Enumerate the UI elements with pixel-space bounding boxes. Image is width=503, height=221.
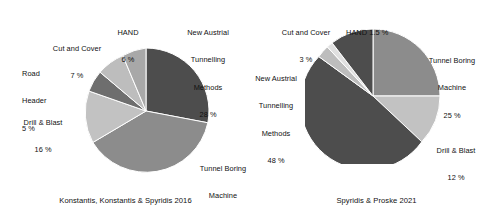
label-cut-line1: Cut and Cover: [273, 28, 339, 37]
label-drill-blast-left: Drill & Blast 16 %: [12, 100, 74, 173]
label-natm-line1: New Austrial: [247, 74, 305, 83]
label-tbm-line1: Tunnel Boring: [192, 164, 254, 173]
label-natm-line2: Tunnelling: [247, 101, 305, 110]
label-drill-line1: Drill & Blast: [424, 146, 488, 155]
label-hand-left: HAND 6 %: [106, 10, 150, 83]
label-drill-value: 12 %: [424, 173, 488, 182]
label-natm-value: 28 %: [168, 110, 248, 119]
label-natm-line1: New Austrial: [168, 28, 248, 37]
label-tbm-value: 25 %: [416, 111, 488, 120]
label-natm-right: New Austrial Tunnelling Methods 48 %: [247, 56, 305, 183]
chart-panel-left: New Austrial Tunnelling Methods 28 % HAN…: [0, 0, 251, 221]
label-natm-line3: Methods: [168, 83, 248, 92]
label-natm-line3: Methods: [247, 129, 305, 138]
caption-left: Konstantis, Konstantis & Spyridis 2016: [0, 196, 251, 206]
label-tbm-right: Tunnel Boring Machine 25 %: [416, 38, 488, 138]
pie-chart-figure: New Austrial Tunnelling Methods 28 % HAN…: [0, 0, 503, 221]
label-tbm-value: 38 %: [192, 219, 254, 221]
label-drill-line1: Drill & Blast: [12, 118, 74, 127]
caption-right: Spyridis & Proske 2021: [251, 196, 502, 206]
label-drill-value: 16 %: [12, 145, 74, 154]
label-tbm-left: Tunnel Boring Machine 38 %: [192, 146, 254, 221]
label-road-line1: Road: [22, 69, 72, 78]
label-drill-blast-right: Drill & Blast 12 %: [424, 128, 488, 201]
label-hand-line1: HAND 1.5 %: [346, 28, 408, 37]
label-hand-line1: HAND: [106, 28, 150, 37]
label-tbm-line2: Machine: [416, 83, 488, 92]
label-natm-value: 48 %: [247, 156, 305, 165]
chart-panel-right: Cut and Cover 3 % HAND 1.5 % Tunnel Bori…: [251, 0, 502, 221]
label-natm-left: New Austrial Tunnelling Methods 28 %: [168, 10, 248, 137]
label-tbm-line1: Tunnel Boring: [416, 56, 488, 65]
label-hand-right: HAND 1.5 %: [346, 10, 408, 55]
label-natm-line2: Tunnelling: [168, 55, 248, 64]
label-hand-value: 6 %: [106, 55, 150, 64]
